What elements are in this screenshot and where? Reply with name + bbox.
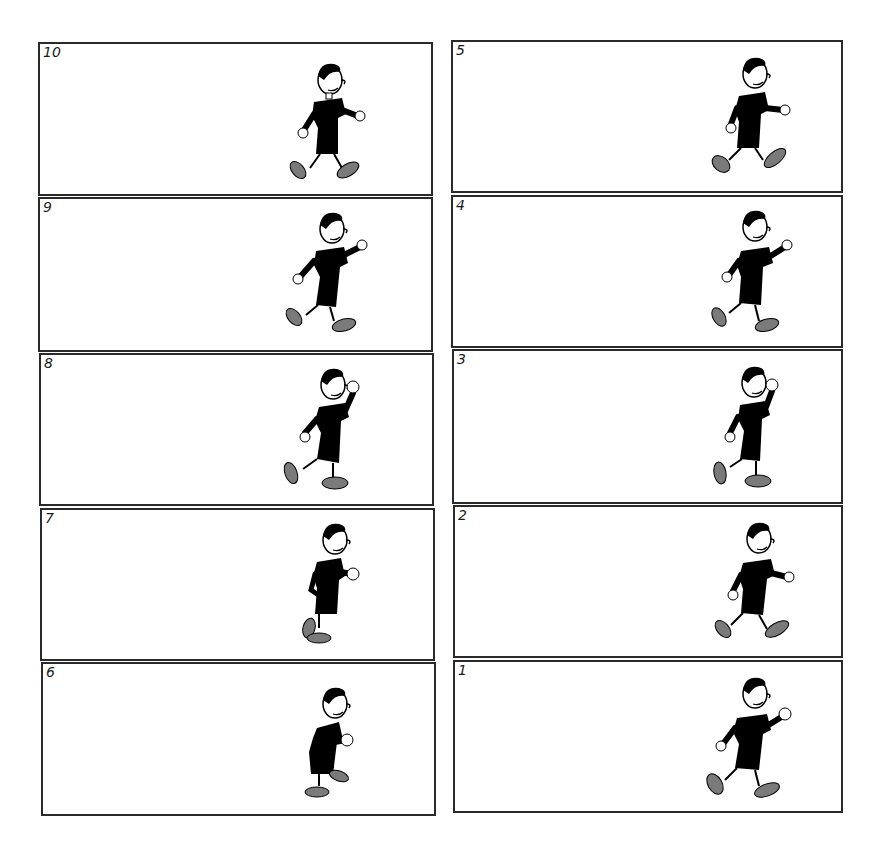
walking-boy-figure: [279, 363, 379, 493]
walking-boy-icon: [283, 682, 383, 812]
frame-panel-1: 1: [453, 660, 843, 813]
frame-panel-4: 4: [451, 195, 843, 348]
frame-number: 10: [43, 45, 61, 59]
walking-boy-figure: [703, 52, 803, 182]
walking-boy-icon: [703, 52, 803, 182]
frame-panel-9: 9: [38, 197, 433, 352]
walking-boy-figure: [280, 207, 380, 337]
walking-boy-icon: [706, 361, 806, 491]
frame-panel-10: 10: [38, 42, 433, 196]
frame-number: 6: [46, 665, 55, 679]
frame-panel-8: 8: [39, 353, 434, 506]
frame-panel-2: 2: [453, 505, 843, 658]
walking-boy-figure: [705, 672, 805, 802]
walking-boy-icon: [280, 58, 380, 188]
frame-number: 2: [458, 508, 467, 522]
walking-boy-icon: [705, 672, 805, 802]
walking-boy-figure: [283, 682, 383, 812]
walking-boy-figure: [706, 361, 806, 491]
frame-panel-3: 3: [452, 349, 843, 504]
frame-number: 4: [456, 198, 465, 212]
walking-boy-icon: [280, 207, 380, 337]
walking-boy-figure: [280, 58, 380, 188]
frame-number: 3: [457, 352, 466, 366]
frame-panel-6: 6: [41, 662, 436, 816]
frame-number: 1: [458, 663, 467, 677]
frame-panel-5: 5: [451, 40, 843, 193]
walking-boy-icon: [707, 517, 807, 647]
frame-panel-7: 7: [40, 508, 435, 661]
walking-boy-figure: [707, 517, 807, 647]
walking-boy-figure: [287, 518, 387, 648]
frame-number: 7: [45, 511, 54, 525]
walking-boy-icon: [287, 518, 387, 648]
walking-boy-icon: [705, 205, 805, 335]
frame-number: 9: [43, 200, 52, 214]
frame-number: 8: [44, 356, 53, 370]
walking-boy-figure: [705, 205, 805, 335]
walking-boy-icon: [279, 363, 379, 493]
frame-number: 5: [456, 43, 465, 57]
